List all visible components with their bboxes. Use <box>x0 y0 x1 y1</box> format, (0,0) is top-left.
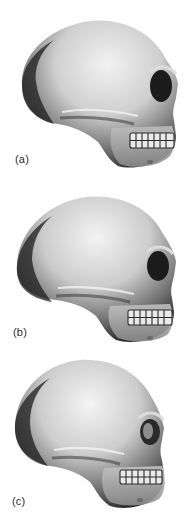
teeth-c <box>120 470 162 484</box>
panel-b: (b) <box>0 176 188 346</box>
teeth-a <box>130 133 174 148</box>
skull-image-c <box>0 346 188 526</box>
skull-image-b <box>0 176 188 346</box>
panel-label-c: (c) <box>12 496 25 507</box>
teeth-b <box>128 310 172 325</box>
panel-a: (a) <box>0 0 188 176</box>
eye-orbit-a <box>150 70 172 102</box>
skull-image-a <box>0 0 188 176</box>
panel-label-b: (b) <box>13 327 27 338</box>
panel-label-a: (a) <box>15 154 29 165</box>
panel-c: (c) <box>0 346 188 526</box>
eye-orbit-b <box>147 251 169 281</box>
